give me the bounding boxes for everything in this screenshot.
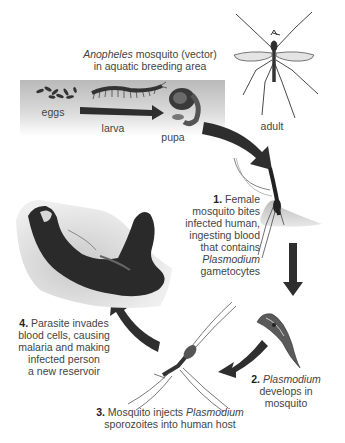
title-line2: in aquatic breeding area: [60, 60, 240, 72]
pupa-label: pupa: [158, 131, 188, 143]
step-4-line: Parasite invades: [28, 317, 109, 329]
step-4-line: blood cells, causing: [14, 329, 114, 341]
developing-mosquito-icon: [257, 314, 300, 368]
larva-label: larva: [98, 122, 128, 134]
step-1-organism: Plasmodium: [180, 253, 260, 265]
step-2-organism: Plasmodium: [263, 373, 321, 385]
step-2-label: 2. Plasmodium develops in mosquito: [246, 373, 326, 409]
step-1-line: ingesting blood: [180, 229, 260, 241]
step-4-line: a new reservoir: [14, 365, 114, 377]
step-3-organism: Plasmodium: [186, 406, 244, 418]
step-3-line: Mosquito injects: [105, 406, 186, 418]
step-4-line: infected person: [14, 353, 114, 365]
step-1-line: mosquito bites: [180, 205, 260, 217]
infected-human-icon: [16, 200, 172, 308]
step-2-line: develops in: [246, 385, 326, 397]
title-line1: mosquito (vector): [133, 48, 217, 60]
step-1-line: Female: [225, 193, 260, 205]
step-4-label: 4. Parasite invades blood cells, causing…: [14, 317, 114, 377]
species-name: Anopheles: [83, 48, 133, 60]
step-2-number: 2.: [251, 373, 260, 385]
step-1-label: 1. Female mosquito bites infected human,…: [180, 193, 260, 277]
eggs-label: eggs: [38, 106, 68, 118]
arrow-bite-to-develop: [283, 243, 303, 296]
step-3-line: sporozoites into human host: [85, 418, 255, 430]
injecting-mosquito-icon: [128, 302, 236, 412]
adult-mosquito-icon: [234, 12, 318, 118]
adult-label: adult: [255, 120, 289, 132]
title-label: Anopheles mosquito (vector) in aquatic b…: [60, 48, 240, 72]
step-3-number: 3.: [96, 406, 105, 418]
step-1-line: infected human,: [180, 217, 260, 229]
step-4-line: malaria and making: [14, 341, 114, 353]
step-4-number: 4.: [19, 317, 28, 329]
step-1-line: gametocytes: [180, 265, 260, 277]
step-3-label: 3. Mosquito injects Plasmodium sporozoit…: [85, 406, 255, 430]
step-2-line: mosquito: [246, 397, 326, 409]
step-1-number: 1.: [213, 193, 222, 205]
step-1-line: that contains: [180, 241, 260, 253]
